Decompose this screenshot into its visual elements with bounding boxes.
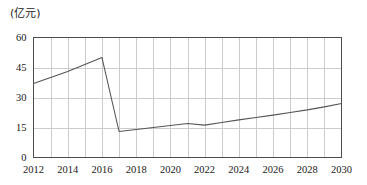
x-tick-label: 2024 [228,164,250,175]
x-tick-label: 2020 [160,164,181,175]
x-tick-label: 2022 [194,164,215,175]
y-tick-label: 30 [16,92,27,103]
x-tick-label: 2026 [263,164,284,175]
x-tick-label: 2030 [331,164,352,175]
x-tick-label: 2018 [126,164,147,175]
line-chart: 015304560 201220142016201820202022202420… [0,0,367,185]
chart-axes [34,38,342,158]
x-tick-label: 2014 [57,164,79,175]
x-tick-label: 2028 [297,164,318,175]
y-tick-label: 45 [16,62,27,73]
y-axis-tick-labels: 015304560 [16,32,27,163]
x-tick-label: 2016 [91,164,112,175]
chart-screenshot: (亿元) 015304560 2012201420162018202020222… [0,0,367,185]
y-tick-label: 60 [16,32,27,43]
x-tick-label: 2012 [23,164,44,175]
plot-frame [34,38,342,158]
x-axis-tick-labels: 2012201420162018202020222024202620282030 [23,164,352,175]
y-tick-label: 15 [16,122,27,133]
y-tick-label: 0 [21,152,26,163]
chart-grid [34,38,342,158]
